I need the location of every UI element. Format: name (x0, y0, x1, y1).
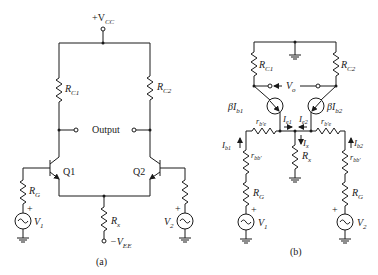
circuit-diagram: +VCC RC1 RC2 Output Q1 (0, 0, 378, 275)
ie2-label: Ie2 (298, 114, 308, 125)
ground-icon (179, 238, 191, 242)
rbb1-label: rbb′ (251, 151, 262, 161)
vcc-terminal (101, 27, 105, 31)
rbb2-resistor (342, 150, 348, 174)
rg-right-resistor (182, 180, 188, 204)
ground-icon (17, 238, 29, 242)
rx-label: Rx (110, 215, 121, 229)
v1-plus: + (27, 203, 33, 214)
rc1-resistor (251, 52, 257, 76)
rc1-label: RC1 (64, 83, 79, 97)
rg-left-label: RG (28, 185, 40, 199)
rbe2-label: rb′e (321, 117, 331, 127)
rg-left-resistor (243, 182, 249, 206)
ix-label: Ix (302, 138, 309, 149)
v2-label: V2 (357, 217, 367, 231)
rx-label: Rx (301, 150, 312, 164)
ac-source-icon (340, 220, 350, 224)
caption-b: (b) (290, 246, 302, 258)
rc2-label: RC2 (340, 59, 356, 73)
ib2-label: Ib2 (353, 138, 363, 149)
v1-plus: + (251, 204, 257, 215)
beta-ib1-label: βIb1 (227, 101, 243, 115)
v1-label: V1 (34, 216, 44, 230)
rx-resistor (101, 207, 107, 231)
rbe1-resistor (252, 128, 276, 134)
ib1-label: Ib1 (221, 140, 231, 151)
output-label: Output (92, 124, 120, 135)
caption-a: (a) (96, 256, 107, 268)
vo-label: Vo (286, 80, 296, 94)
q1-label: Q1 (63, 166, 75, 177)
ground-icon (289, 55, 301, 59)
vcc-label: +VCC (92, 12, 115, 26)
ac-source-icon (180, 219, 190, 223)
beta-ib2-label: βIb2 (326, 101, 343, 115)
rg-left-resistor (20, 180, 26, 204)
ac-source-icon (241, 220, 251, 224)
rg-right-resistor (342, 182, 348, 206)
ie1-label: Ie1 (282, 114, 292, 125)
rc1-label: RC1 (258, 59, 273, 73)
q2-transistor (150, 130, 185, 196)
rbe2-resistor (316, 128, 340, 134)
rc2-resistor (333, 52, 339, 76)
rg-left-label: RG (252, 187, 264, 201)
rbb2-label: rbb′ (350, 153, 361, 163)
output-terminal-right (132, 128, 136, 132)
v1-label: V1 (258, 217, 268, 231)
vee-terminal (102, 239, 106, 243)
ground-icon (339, 239, 351, 243)
output-terminal-left (74, 128, 78, 132)
rg-right-label: RG (351, 187, 363, 201)
ground-icon (289, 178, 301, 182)
rbe1-label: rb′e (256, 117, 266, 127)
rc2-label: RC2 (156, 81, 172, 95)
ac-source-icon (18, 219, 28, 223)
rc1-resistor (56, 78, 62, 102)
figure-b: RC1 RC2 Vo βIb1 βIb2 (221, 41, 367, 259)
ground-icon (240, 239, 252, 243)
q2-label: Q2 (133, 166, 145, 177)
v2-plus: + (175, 203, 181, 214)
rbb1-resistor (243, 150, 249, 174)
v2-label: V2 (164, 216, 174, 230)
figure-a: +VCC RC1 RC2 Output Q1 (15, 12, 193, 268)
rc2-resistor (147, 76, 153, 100)
v2-plus: + (332, 204, 338, 215)
rx-resistor (292, 145, 298, 169)
vee-label: −VEE (110, 236, 132, 250)
